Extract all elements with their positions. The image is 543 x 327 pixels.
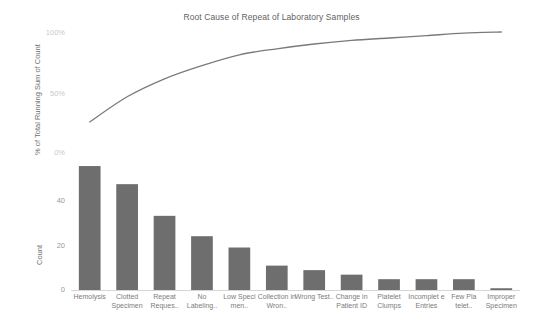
bar bbox=[416, 279, 438, 290]
bar bbox=[191, 236, 213, 290]
bar bbox=[116, 184, 138, 290]
x-axis-label: Collection in Wron.. bbox=[257, 292, 296, 310]
cumulative-percent-line bbox=[90, 32, 502, 122]
bar bbox=[229, 248, 251, 291]
bars-group bbox=[79, 166, 512, 290]
x-axis-label: Incomplet e Entries bbox=[407, 292, 446, 310]
x-axis-label: Few Pla telet.. bbox=[444, 292, 483, 310]
x-axis-label: Low Speci men.. bbox=[220, 292, 259, 310]
pareto-chart: Root Cause of Repeat of Laboratory Sampl… bbox=[0, 0, 543, 327]
bar bbox=[154, 216, 176, 291]
x-axis-label: Improper Specimen bbox=[482, 292, 521, 310]
x-axis-category-labels: HemolysisClotted SpecimenRepeat Reques..… bbox=[0, 292, 543, 327]
x-axis-label: Wrong Test.. bbox=[295, 292, 334, 301]
bar bbox=[453, 279, 475, 290]
bar bbox=[79, 166, 101, 290]
bar bbox=[266, 266, 288, 291]
x-axis-label: Repeat Reques.. bbox=[145, 292, 184, 310]
plot-area bbox=[0, 0, 543, 327]
x-axis-label: Hemolysis bbox=[70, 292, 109, 301]
bar bbox=[341, 275, 363, 291]
x-axis-label: Change in Patient ID bbox=[332, 292, 371, 310]
x-axis-label: No Labeling.. bbox=[182, 292, 221, 310]
bar bbox=[378, 279, 400, 290]
x-axis-label: Clotted Specimen bbox=[107, 292, 146, 310]
bar bbox=[303, 270, 325, 290]
x-axis-label: Platelet Clumps bbox=[369, 292, 408, 310]
